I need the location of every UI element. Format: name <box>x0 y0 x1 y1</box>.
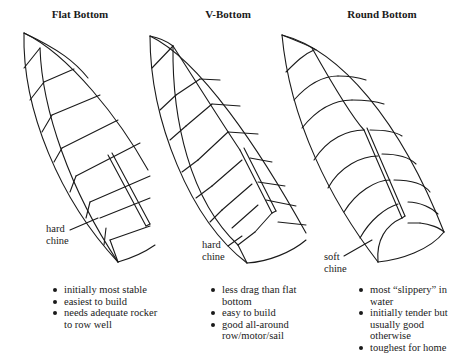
feature-item: good all-around row/motor/sail <box>210 319 306 342</box>
feature-item: toughest for home <box>358 342 450 354</box>
v-bottom-hull-drawing <box>150 36 306 263</box>
flat-bottom-hull-drawing <box>24 33 155 262</box>
v-bottom-features: less drag than flat bottom easy to build… <box>210 284 306 342</box>
feature-item: needs adequate rocker to row well <box>52 307 162 330</box>
round-bottom-features: most “slippery” in water initially tende… <box>358 284 450 354</box>
feature-item: less drag than flat bottom <box>210 284 306 307</box>
feature-item: initially most stable <box>52 284 162 296</box>
feature-item: most “slippery” in water <box>358 284 450 307</box>
round-bottom-chine-label: soft chine <box>324 251 347 275</box>
feature-item: initially tender but usually good otherw… <box>358 307 450 342</box>
round-bottom-hull-drawing <box>282 35 444 262</box>
flat-bottom-features: initially most stable easiest to build n… <box>52 284 162 330</box>
v-bottom-chine-label: hard chine <box>202 239 225 263</box>
feature-item: easiest to build <box>52 296 162 308</box>
flat-bottom-chine-label: hard chine <box>46 223 69 247</box>
feature-item: easy to build <box>210 307 306 319</box>
